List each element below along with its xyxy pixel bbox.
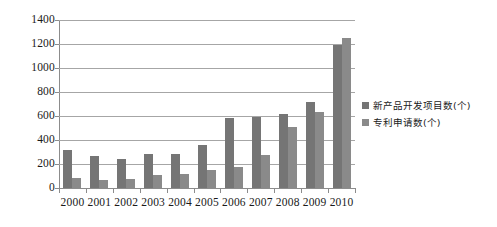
bar-group-2007 bbox=[247, 20, 274, 188]
bar-2010-series-1 bbox=[333, 45, 342, 188]
x-tick-label-2007: 2007 bbox=[247, 196, 274, 208]
x-axis-line bbox=[59, 188, 356, 189]
bar-2005-series-1 bbox=[198, 145, 207, 188]
x-tick-label-2009: 2009 bbox=[301, 196, 328, 208]
x-tick-label-2005: 2005 bbox=[194, 196, 221, 208]
x-tick-mark-2003 bbox=[140, 189, 141, 193]
y-tick-mark-1000 bbox=[55, 68, 59, 69]
x-tick-mark-2005 bbox=[194, 189, 195, 193]
x-tick-mark-2004 bbox=[167, 189, 168, 193]
y-tick-label-0: 0 bbox=[3, 182, 55, 194]
bar-group-2000 bbox=[59, 20, 86, 188]
bar-2008-series-2 bbox=[288, 127, 297, 188]
bar-group-2001 bbox=[86, 20, 113, 188]
bar-2010-series-2 bbox=[342, 38, 351, 188]
x-tick-mark-2010 bbox=[328, 189, 329, 193]
bar-2001-series-2 bbox=[99, 180, 108, 188]
bar-2001-series-1 bbox=[90, 156, 99, 188]
bar-2000-series-1 bbox=[63, 150, 72, 188]
bar-group-2009 bbox=[301, 20, 328, 188]
bar-2009-series-2 bbox=[315, 112, 324, 188]
y-tick-mark-800 bbox=[55, 92, 59, 93]
y-tick-mark-200 bbox=[55, 164, 59, 165]
x-tick-label-2002: 2002 bbox=[113, 196, 140, 208]
legend-item-label-2: 专利申请数(个) bbox=[373, 117, 440, 128]
x-tick-mark-2006 bbox=[220, 189, 221, 193]
x-tick-label-2010: 2010 bbox=[328, 196, 355, 208]
bar-2008-series-1 bbox=[279, 114, 288, 188]
x-tick-mark-2007 bbox=[247, 189, 248, 193]
y-tick-mark-600 bbox=[55, 116, 59, 117]
bar-group-2008 bbox=[274, 20, 301, 188]
x-tick-mark-end bbox=[355, 189, 356, 193]
y-tick-label-200: 200 bbox=[3, 158, 55, 170]
bar-2003-series-2 bbox=[153, 175, 162, 188]
x-tick-label-2004: 2004 bbox=[167, 196, 194, 208]
legend-item-2[interactable]: 专利申请数(个) bbox=[362, 114, 497, 131]
bar-group-2004 bbox=[167, 20, 194, 188]
bar-chart: 0200400600800100012001400 20002001200220… bbox=[0, 0, 497, 227]
bar-group-2005 bbox=[194, 20, 221, 188]
bar-group-2010 bbox=[328, 20, 355, 188]
bar-2005-series-2 bbox=[207, 170, 216, 188]
square-marker bbox=[362, 119, 369, 126]
bar-group-2006 bbox=[220, 20, 247, 188]
bar-2006-series-1 bbox=[225, 118, 234, 188]
bar-2007-series-1 bbox=[252, 117, 261, 188]
y-tick-label-400: 400 bbox=[3, 134, 55, 146]
legend-item-1[interactable]: 新产品开发项目数(个) bbox=[362, 97, 497, 114]
bar-2003-series-1 bbox=[144, 154, 153, 188]
bar-2006-series-2 bbox=[234, 167, 243, 188]
bar-2004-series-2 bbox=[180, 174, 189, 188]
x-tick-mark-2008 bbox=[274, 189, 275, 193]
legend-item-label-1: 新产品开发项目数(个) bbox=[373, 100, 470, 111]
bar-2009-series-1 bbox=[306, 102, 315, 188]
plot-area bbox=[59, 20, 355, 188]
x-tick-label-2006: 2006 bbox=[220, 196, 247, 208]
square-marker bbox=[362, 102, 369, 109]
y-tick-label-1000: 1000 bbox=[3, 62, 55, 74]
bar-2002-series-2 bbox=[126, 179, 135, 188]
x-tick-mark-2002 bbox=[113, 189, 114, 193]
bar-2000-series-2 bbox=[72, 178, 81, 188]
y-tick-mark-1200 bbox=[55, 44, 59, 45]
x-tick-mark-2009 bbox=[301, 189, 302, 193]
bar-group-2003 bbox=[140, 20, 167, 188]
y-tick-mark-400 bbox=[55, 140, 59, 141]
y-tick-label-1400: 1400 bbox=[3, 14, 55, 26]
y-tick-label-600: 600 bbox=[3, 110, 55, 122]
x-tick-label-2000: 2000 bbox=[59, 196, 86, 208]
x-tick-mark-2000 bbox=[59, 189, 60, 193]
y-axis-tick-labels: 0200400600800100012001400 bbox=[0, 20, 55, 188]
y-tick-label-800: 800 bbox=[3, 86, 55, 98]
x-tick-label-2003: 2003 bbox=[140, 196, 167, 208]
x-tick-label-2001: 2001 bbox=[86, 196, 113, 208]
x-tick-label-2008: 2008 bbox=[274, 196, 301, 208]
bar-2004-series-1 bbox=[171, 154, 180, 188]
bar-2002-series-1 bbox=[117, 159, 126, 188]
y-tick-mark-1400 bbox=[55, 20, 59, 21]
y-tick-label-1200: 1200 bbox=[3, 38, 55, 50]
x-tick-mark-2001 bbox=[86, 189, 87, 193]
bar-2007-series-2 bbox=[261, 155, 270, 188]
chart-legend: 新产品开发项目数(个)专利申请数(个) bbox=[362, 97, 497, 131]
bar-group-2002 bbox=[113, 20, 140, 188]
